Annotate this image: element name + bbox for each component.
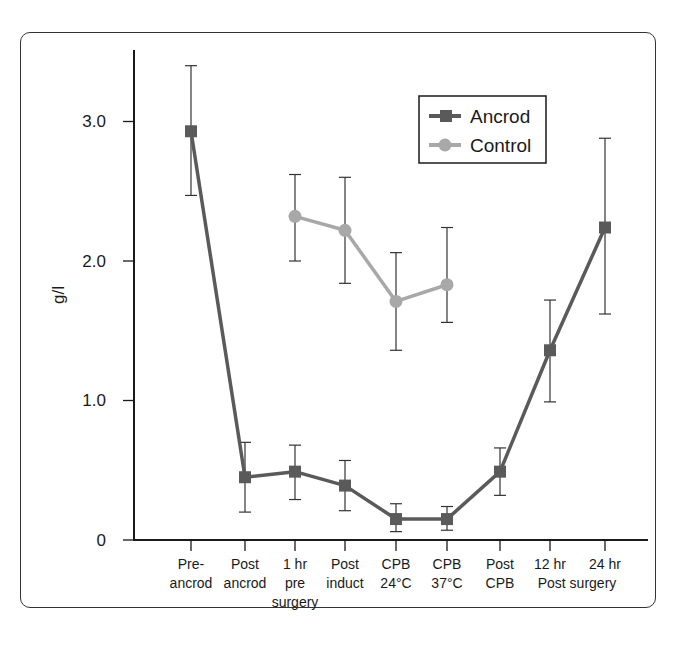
x-label-4-line2: 24°C: [380, 575, 411, 591]
x-label-7-line1: 12 hr: [534, 556, 566, 572]
x-label-0-line1: Pre-: [178, 556, 205, 572]
x-label-5-line1: CPB: [433, 556, 462, 572]
legend-label-control: Control: [470, 135, 531, 156]
axes: [123, 50, 648, 551]
y-tick-1: 1.0: [82, 391, 106, 410]
x-label-4-line1: CPB: [382, 556, 411, 572]
y-axis-ticks: 0 1.0 2.0 3.0: [82, 112, 106, 550]
y-tick-3: 3.0: [82, 112, 106, 131]
series-control: [289, 175, 454, 351]
x-label-2-line1: 1 hr: [283, 556, 307, 572]
x-label-1-line1: Post: [231, 556, 259, 572]
data-point-circle: [339, 224, 352, 237]
data-point-square: [599, 222, 611, 234]
data-point-square: [339, 480, 351, 492]
data-point-square: [239, 471, 251, 483]
x-label-3-line1: Post: [331, 556, 359, 572]
x-label-6-line1: Post: [486, 556, 514, 572]
x-label-5-line2: 37°C: [431, 575, 462, 591]
x-label-2-line3: surgery: [272, 594, 319, 610]
data-point-circle: [289, 210, 302, 223]
legend-ancrod-square-icon: [440, 110, 452, 122]
data-point-square: [441, 513, 453, 525]
legend: Ancrod Control: [419, 96, 546, 163]
data-point-square: [494, 466, 506, 478]
data-point-square: [544, 344, 556, 356]
data-point-circle: [390, 295, 403, 308]
x-label-6-line2: CPB: [486, 575, 515, 591]
legend-label-ancrod: Ancrod: [470, 106, 530, 127]
x-label-0-line2: ancrod: [170, 575, 213, 591]
data-point-square: [289, 466, 301, 478]
y-axis-label: g/l: [49, 286, 68, 304]
series-line: [295, 216, 447, 301]
data-point-square: [390, 513, 402, 525]
data-series: [185, 66, 611, 532]
x-label-8-line1: 24 hr: [589, 556, 621, 572]
data-point-square: [185, 125, 197, 137]
x-label-2-line2: pre: [285, 575, 305, 591]
legend-control-circle-icon: [439, 139, 452, 152]
x-shared-label-post-surgery: Post surgery: [538, 575, 617, 591]
line-chart: 0 1.0 2.0 3.0 g/l Pre- ancrod Post ancro…: [0, 0, 681, 648]
series-line: [191, 131, 605, 519]
y-tick-0: 0: [97, 531, 106, 550]
y-tick-2: 2.0: [82, 252, 106, 271]
x-label-1-line2: ancrod: [224, 575, 267, 591]
x-axis-labels: Pre- ancrod Post ancrod 1 hr pre surgery…: [170, 556, 622, 610]
x-label-3-line2: induct: [326, 575, 363, 591]
data-point-circle: [441, 278, 454, 291]
